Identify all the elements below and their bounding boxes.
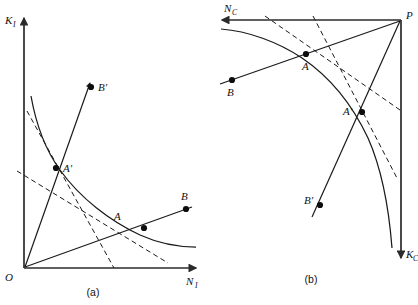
panel-a-label-a: A — [113, 210, 121, 222]
panel-b-point-b-prime-dot — [317, 202, 323, 208]
panel-a-ray-ob-prime — [25, 83, 90, 267]
panel-b-isocost-a — [265, 16, 400, 110]
panel-a-point-a-dot — [141, 225, 147, 231]
panel-a-label-b: B — [181, 190, 188, 202]
panel-b-point-a-prime-dot — [359, 109, 365, 115]
panel-b-point-b-dot — [229, 77, 235, 83]
panel-a-isoquant — [31, 96, 196, 247]
panel-b-x-axis-label: N — [223, 2, 232, 14]
panel-b-caption: (b) — [305, 273, 318, 285]
panel-a-label-a-prime: A' — [62, 162, 73, 174]
panel-b-ray-pb-prime — [312, 21, 400, 217]
panel-a-y-axis-label: K — [4, 14, 13, 26]
panel-a-point-a-prime-dot — [53, 165, 59, 171]
panel-a-label-b-prime: B' — [98, 81, 108, 93]
panel-a-isocost-a-prime — [27, 111, 114, 268]
panel-b-label-b: B — [227, 86, 234, 98]
panel-a-point-b-dot — [183, 206, 189, 212]
panel-b-isocost-a-prime — [313, 16, 398, 180]
panel-b-label-a: A — [301, 60, 309, 72]
panel-b-label-p: P — [405, 9, 413, 21]
figure-svg: K I N I O A' A B B' (a) — [0, 0, 418, 305]
panel-b-label-b-prime: B' — [304, 194, 314, 206]
panel-a-isocost-a — [17, 171, 168, 263]
panel-b-label-a-prime: A' — [342, 105, 353, 117]
panel-a-point-b-prime-dot — [88, 84, 94, 90]
panel-a-origin-label: O — [5, 271, 13, 283]
panel-b-ray-pb — [220, 21, 400, 84]
figure-container: K I N I O A' A B B' (a) — [0, 0, 418, 305]
panel-a-y-axis-label-sub: I — [12, 20, 16, 29]
panel-a: K I N I O A' A B B' (a) — [4, 14, 198, 298]
panel-b-y-axis-label-sub: C — [413, 254, 418, 263]
panel-a-x-axis-label-sub: I — [194, 281, 198, 290]
panel-b: N C K C P A A' B B' (b) — [220, 2, 418, 285]
panel-b-x-axis-label-sub: C — [232, 8, 238, 17]
panel-b-point-a-dot — [303, 51, 309, 57]
panel-a-x-axis-label: N — [185, 275, 194, 287]
panel-a-caption: (a) — [87, 286, 100, 298]
